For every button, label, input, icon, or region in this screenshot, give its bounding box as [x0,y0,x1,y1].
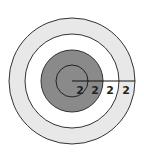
target-diagram: 2 2 2 2 [0,0,144,161]
segment-label-3: 2 [106,84,114,97]
segment-label-2: 2 [91,84,99,97]
segment-label-1: 2 [76,84,84,97]
segment-label-4: 2 [122,84,130,97]
